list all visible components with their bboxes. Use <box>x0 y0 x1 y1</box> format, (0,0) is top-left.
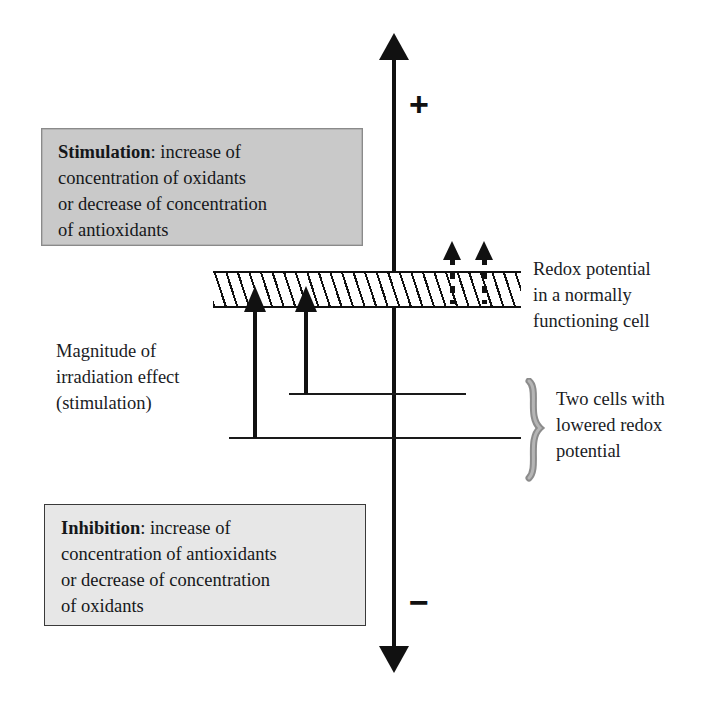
two-cells-brace-icon <box>520 378 554 486</box>
stimulation-separator: : <box>151 142 161 162</box>
inhibition-arrow-2-head-icon <box>475 241 493 260</box>
cell-level-upper-line <box>289 393 466 395</box>
inhibition-box: Inhibition: increase of concentration of… <box>44 504 366 626</box>
cell-level-lower-line <box>229 437 521 439</box>
axis-minus-sign: − <box>409 585 429 619</box>
redox-potential-band-label: Redox potential in a normally functionin… <box>533 256 708 334</box>
inhibition-arrow-1-head-icon <box>443 241 461 260</box>
redox-potential-axis <box>392 56 396 664</box>
axis-arrow-down-icon <box>379 646 409 673</box>
diagram-canvas: + − Stimulation: increase of concentrati… <box>0 0 714 701</box>
inhibition-separator: : <box>140 518 150 538</box>
stimulation-box: Stimulation: increase of concentration o… <box>41 128 363 246</box>
two-cells-lowered-redox-label: Two cells with lowered redox potential <box>556 386 711 464</box>
stimulation-arrow-2-head-icon <box>295 286 317 312</box>
stimulation-arrow-1-head-icon <box>244 286 266 312</box>
inhibition-keyword: Inhibition <box>61 518 140 538</box>
inhibition-arrow-2-shaft <box>482 258 487 304</box>
inhibition-arrow-1-shaft <box>450 258 455 304</box>
magnitude-of-irradiation-effect-label: Magnitude of irradiation effect (stimula… <box>56 338 271 416</box>
axis-plus-sign: + <box>409 87 429 121</box>
stimulation-keyword: Stimulation <box>58 142 151 162</box>
